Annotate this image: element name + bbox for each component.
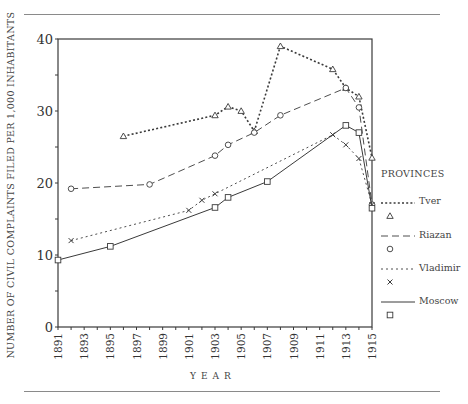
plot-frame bbox=[58, 39, 372, 327]
legend-sample-tver bbox=[381, 203, 415, 218]
legend-label-tver: Tver bbox=[419, 195, 441, 206]
y-axis-label: NUMBER OF CIVIL COMPLAINTS FILED PER 1,0… bbox=[5, 19, 16, 359]
legend-sample-vladimir bbox=[381, 269, 415, 285]
legend-label-moscow: Moscow bbox=[419, 295, 459, 306]
legend-sample-moscow bbox=[381, 302, 415, 318]
x-tick-label: 1911 bbox=[314, 333, 326, 360]
y-tick-label: 20 bbox=[36, 176, 53, 191]
x-tick-label: 1897 bbox=[131, 333, 143, 360]
y-tick-label: 30 bbox=[36, 104, 53, 119]
y-tick-label: 10 bbox=[36, 248, 53, 263]
x-tick-label: 1907 bbox=[261, 333, 273, 360]
legend-label-riazan: Riazan bbox=[419, 229, 452, 240]
x-tick-label: 1915 bbox=[366, 333, 378, 360]
x-tick-label: 1913 bbox=[340, 333, 352, 360]
x-tick-label: 1899 bbox=[157, 333, 169, 360]
x-axis-label: YEAR bbox=[190, 371, 236, 381]
y-tick-label: 0 bbox=[45, 320, 53, 335]
legend-title: PROVINCES bbox=[381, 168, 445, 179]
x-tick-label: 1909 bbox=[288, 333, 300, 360]
legend-sample-riazan bbox=[381, 236, 415, 252]
line-chart: 0102030401891189318951897189919011903190… bbox=[0, 0, 468, 404]
y-tick-label: 40 bbox=[36, 32, 53, 47]
series-tver bbox=[120, 43, 375, 160]
x-tick-label: 1903 bbox=[209, 333, 221, 360]
x-tick-label: 1891 bbox=[52, 333, 64, 360]
series-riazan bbox=[68, 85, 375, 207]
x-tick-label: 1895 bbox=[104, 333, 116, 360]
series-moscow bbox=[55, 123, 375, 263]
x-tick-label: 1905 bbox=[235, 333, 247, 360]
series-vladimir bbox=[69, 132, 375, 243]
x-tick-label: 1893 bbox=[78, 333, 90, 360]
x-tick-label: 1901 bbox=[183, 333, 195, 360]
legend-label-vladimir: Vladimir bbox=[419, 262, 460, 273]
